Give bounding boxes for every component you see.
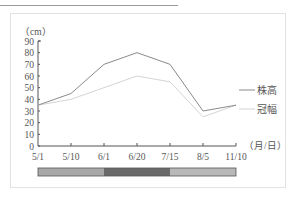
x-tick-label: 5/1 — [32, 152, 44, 162]
phase-segment — [38, 168, 104, 176]
y-tick-label: 30 — [25, 107, 35, 117]
series-line — [38, 53, 236, 111]
y-tick-label: 80 — [25, 48, 35, 58]
y-tick-label: 70 — [25, 60, 35, 70]
x-tick-label: 7/15 — [162, 152, 179, 162]
y-tick-label: 50 — [25, 83, 35, 93]
y-tick-label: 40 — [25, 95, 35, 105]
legend-label-crown: 冠幅 — [257, 103, 277, 115]
legend-label-height: 株高 — [257, 84, 277, 96]
y-tick-label: 90 — [25, 37, 35, 47]
x-tick-label: 6/20 — [129, 152, 146, 162]
y-tick-label: 20 — [25, 118, 35, 128]
x-tick-label: 5/10 — [63, 152, 80, 162]
axes: 01020304050607080905/15/106/16/207/158/5… — [25, 37, 247, 163]
y-tick-label: 10 — [25, 130, 35, 140]
y-tick-label: 0 — [29, 142, 34, 152]
phase-segment — [170, 168, 236, 176]
phase-segment — [104, 168, 170, 176]
y-tick-label: 60 — [25, 72, 35, 82]
x-axis-unit: （月/日） — [244, 140, 287, 151]
legend: 株高 冠幅 — [239, 84, 277, 115]
line-chart: 01020304050607080905/15/106/16/207/158/5… — [0, 0, 296, 197]
x-tick-label: 6/1 — [98, 152, 110, 162]
series-lines — [38, 53, 236, 117]
x-tick-label: 8/5 — [197, 152, 209, 162]
x-tick-label: 11/10 — [225, 152, 247, 162]
phase-bar — [38, 168, 236, 176]
y-axis-unit: （cm） — [20, 26, 52, 37]
